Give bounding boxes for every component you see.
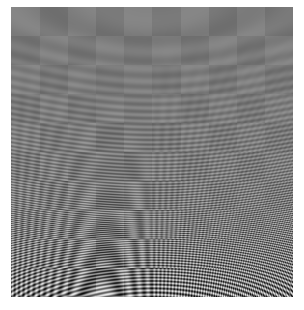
pattern-canvas: [11, 7, 293, 297]
pattern-image: [11, 7, 293, 297]
